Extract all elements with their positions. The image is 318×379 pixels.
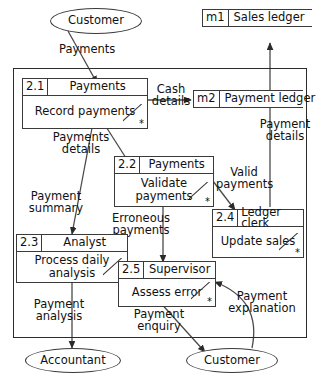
process-action-label: Validate payments bbox=[117, 177, 211, 202]
process-action: Validate payments * bbox=[115, 174, 213, 206]
flow-label-payment-summary: Payment summary bbox=[23, 190, 89, 215]
flow-label-payment-analysis: Payment analysis bbox=[28, 298, 90, 323]
flow-text: Payments bbox=[59, 42, 115, 56]
entity-label: Accountant bbox=[40, 355, 105, 367]
process-number: 2.1 bbox=[23, 79, 48, 95]
process-2-2[interactable]: 2.2 Payments Validate payments * bbox=[114, 156, 214, 207]
entity-label: Customer bbox=[204, 355, 260, 367]
entity-customer-top[interactable]: Customer bbox=[50, 8, 142, 34]
flow-text: Payments details bbox=[53, 130, 109, 156]
flow-label-cash-details: Cash details bbox=[150, 83, 192, 108]
flow-text: Payment enquiry bbox=[134, 307, 184, 333]
entity-accountant[interactable]: Accountant bbox=[25, 348, 121, 373]
data-store-label: Sales ledger bbox=[229, 10, 310, 26]
process-marker: * bbox=[205, 197, 210, 207]
process-2-5[interactable]: 2.5 Supervisor Assess error * bbox=[118, 261, 216, 307]
process-action-label: Process daily analysis bbox=[19, 254, 125, 279]
data-store-code: m2 bbox=[194, 91, 220, 107]
process-header: 2.1 Payments bbox=[23, 79, 147, 96]
data-store-m1[interactable]: m1 Sales ledger bbox=[202, 9, 312, 27]
process-marker: * bbox=[295, 248, 300, 258]
flow-label-payment-explanation: Payment explanation bbox=[222, 290, 302, 315]
entity-label: Customer bbox=[68, 15, 124, 27]
flow-text: Payment analysis bbox=[34, 297, 84, 323]
process-action-label: Record payments bbox=[35, 105, 136, 117]
process-number: 2.5 bbox=[119, 262, 144, 278]
process-owner: Ledger clerk bbox=[238, 210, 303, 226]
data-store-label: Payment ledger bbox=[220, 91, 318, 107]
process-2-4[interactable]: 2.4 Ledger clerk Update sales * bbox=[212, 209, 304, 258]
process-owner: Payments bbox=[140, 157, 213, 173]
flow-label-valid-payments: Valid payments bbox=[216, 166, 272, 191]
flow-text: Payment explanation bbox=[228, 289, 296, 315]
process-number: 2.2 bbox=[115, 157, 140, 173]
dfd-canvas: Customer Accountant Customer m1 Sales le… bbox=[0, 0, 318, 379]
flow-label-payments-details: Payments details bbox=[48, 131, 114, 156]
flow-text: Cash details bbox=[152, 82, 190, 108]
flow-text: Payment details bbox=[260, 117, 310, 143]
process-2-3[interactable]: 2.3 Analyst Process daily analysis * bbox=[16, 234, 128, 283]
process-header: 2.5 Supervisor bbox=[119, 262, 215, 279]
process-header: 2.4 Ledger clerk bbox=[213, 210, 303, 227]
flow-text: Valid payments bbox=[216, 165, 273, 191]
flow-text: Payment summary bbox=[29, 189, 83, 215]
data-store-code: m1 bbox=[203, 10, 229, 26]
process-number: 2.4 bbox=[213, 210, 238, 226]
process-action-label: Update sales bbox=[221, 235, 296, 247]
data-store-m2[interactable]: m2 Payment ledger bbox=[193, 90, 303, 108]
flow-label-payments: Payments bbox=[59, 43, 115, 55]
process-action: Update sales * bbox=[213, 227, 303, 257]
process-action: Record payments * bbox=[23, 96, 147, 128]
process-2-1[interactable]: 2.1 Payments Record payments * bbox=[22, 78, 148, 129]
flow-label-payment-details: Payment details bbox=[258, 118, 312, 143]
process-action: Process daily analysis * bbox=[17, 252, 127, 282]
flow-label-payment-enquiry: Payment enquiry bbox=[128, 308, 190, 333]
process-marker: * bbox=[139, 119, 144, 129]
process-owner: Analyst bbox=[42, 235, 127, 251]
process-action-label: Assess error bbox=[132, 286, 202, 298]
process-header: 2.3 Analyst bbox=[17, 235, 127, 252]
process-action: Assess error * bbox=[119, 279, 215, 306]
process-owner: Supervisor bbox=[144, 262, 215, 278]
process-number: 2.3 bbox=[17, 235, 42, 251]
process-owner: Payments bbox=[48, 79, 147, 95]
process-marker: * bbox=[207, 297, 212, 307]
process-header: 2.2 Payments bbox=[115, 157, 213, 174]
entity-customer-bottom[interactable]: Customer bbox=[186, 348, 278, 373]
